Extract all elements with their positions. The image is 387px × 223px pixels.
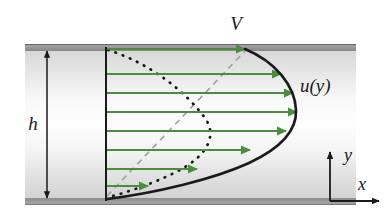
axis-x-label: x — [357, 174, 366, 194]
velocity-profile-label: u(y) — [300, 75, 331, 97]
velocity-V-label: V — [230, 13, 244, 34]
figure-canvas: V h u(y) y x — [0, 0, 387, 223]
axis-y-label: y — [342, 145, 352, 165]
channel-fluid-region — [25, 44, 356, 205]
channel-height-label: h — [28, 113, 38, 134]
velocity-profile-figure: V h u(y) y x — [0, 0, 387, 223]
